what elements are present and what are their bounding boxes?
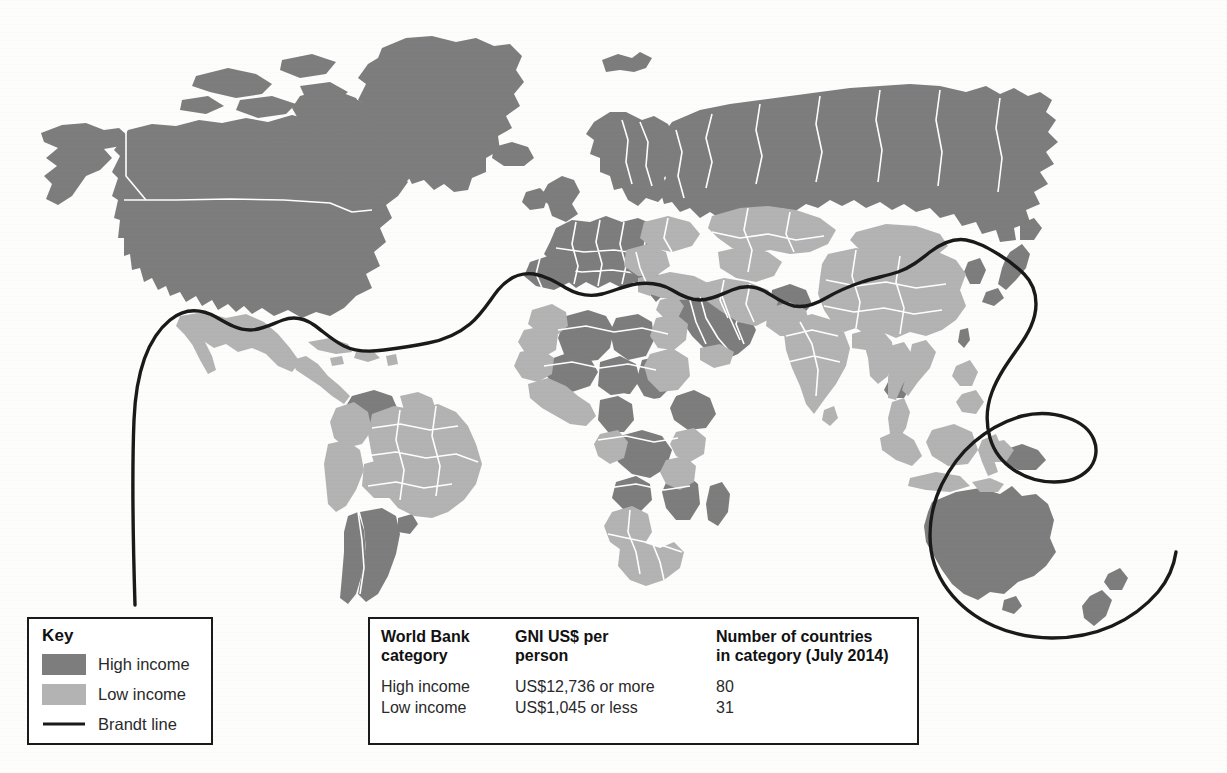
- key-row-low-income: Low income: [42, 679, 211, 709]
- region-arctic-islands-5: [180, 96, 224, 114]
- table-header-category: World Bank category: [370, 619, 515, 674]
- key-legend-box: Key High income Low income Brandt line: [27, 617, 213, 745]
- region-japan-south: [982, 288, 1004, 306]
- region-philippines-north: [952, 360, 978, 386]
- header-gni-line1: GNI US$ per: [515, 628, 608, 645]
- key-row-high-income: High income: [42, 649, 211, 679]
- table-header-gni: GNI US$ per person: [515, 619, 716, 674]
- income-category-table: World Bank category GNI US$ per person N…: [370, 619, 917, 718]
- region-philippines-south: [956, 390, 984, 414]
- table-body: High income US$12,736 or more 80 Low inc…: [370, 674, 917, 718]
- region-madagascar: [706, 482, 730, 526]
- region-new-zealand-north: [1104, 568, 1128, 590]
- key-label-low-income: Low income: [98, 685, 186, 704]
- region-arctic-islands-3: [280, 54, 336, 78]
- region-kazakhstan: [708, 206, 836, 254]
- table-row: High income US$12,736 or more 80: [370, 674, 917, 697]
- cell-gni-high: US$12,736 or more: [515, 674, 716, 697]
- region-arctic-islands-2: [236, 96, 296, 118]
- region-taiwan: [958, 328, 970, 348]
- cell-count-low: 31: [716, 697, 917, 718]
- header-count-line2: in category (July 2014): [716, 647, 889, 664]
- figure-canvas: .hi { fill: #7d7d7d; } .lo { fill: #b3b3…: [0, 0, 1227, 773]
- region-new-zealand-south: [1082, 590, 1112, 626]
- key-label-brandt-line: Brandt line: [98, 715, 177, 734]
- region-kenya: [670, 428, 706, 462]
- region-niger: [598, 356, 640, 396]
- key-label-high-income: High income: [98, 655, 190, 674]
- region-china: [818, 248, 966, 338]
- region-arctic-islands-1: [192, 68, 272, 98]
- region-svalbard: [602, 52, 652, 72]
- table-head: World Bank category GNI US$ per person N…: [370, 619, 917, 674]
- key-title: Key: [42, 626, 211, 646]
- header-category-line1: World Bank: [381, 628, 470, 645]
- region-egypt: [650, 314, 688, 350]
- cell-category-high: High income: [370, 674, 515, 697]
- region-jamaica: [330, 356, 344, 366]
- table-row: Low income US$1,045 or less 31: [370, 697, 917, 718]
- cell-gni-low: US$1,045 or less: [515, 697, 716, 718]
- region-uruguay: [398, 514, 418, 534]
- income-category-table-box: World Bank category GNI US$ per person N…: [368, 617, 919, 745]
- region-sri-lanka: [822, 406, 838, 426]
- cell-count-high: 80: [716, 674, 917, 697]
- region-libya: [610, 314, 654, 360]
- brandt-line-swatch: [42, 714, 86, 735]
- header-count-line1: Number of countries: [716, 628, 872, 645]
- high-income-swatch: [42, 654, 86, 675]
- header-gni-line2: person: [515, 647, 568, 664]
- region-sumatra: [880, 430, 922, 466]
- region-tasmania: [1002, 596, 1022, 614]
- region-lesser-antilles: [386, 354, 398, 366]
- region-nigeria-cameroon: [598, 396, 634, 432]
- cell-category-low: Low income: [370, 697, 515, 718]
- region-korea: [964, 258, 986, 284]
- low-income-swatch: [42, 684, 86, 705]
- region-ecuador-peru: [324, 440, 364, 512]
- region-ethiopia: [670, 390, 716, 430]
- header-category-line2: category: [381, 647, 448, 664]
- table-header-row: World Bank category GNI US$ per person N…: [370, 619, 917, 674]
- key-row-brandt-line: Brandt line: [42, 709, 211, 739]
- table-header-count: Number of countries in category (July 20…: [716, 619, 917, 674]
